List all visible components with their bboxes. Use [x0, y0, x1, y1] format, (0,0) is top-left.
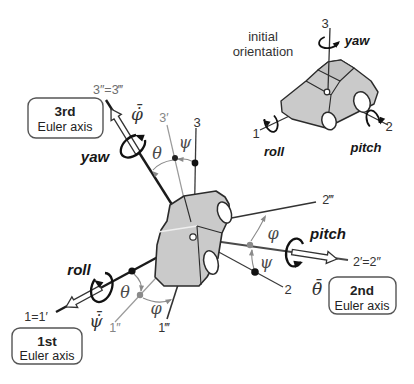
phi-right-label: φ — [267, 224, 279, 243]
figure-canvas: initial orientation 3 yaw 1 roll 2 pitch… — [0, 0, 414, 384]
dot-axis-3-prime — [172, 155, 178, 161]
inset-title-line2: orientation — [233, 44, 294, 59]
inset-yaw-label: yaw — [344, 33, 370, 48]
axis-2-label: 2 — [284, 282, 291, 297]
euler-axis-1-callout-title: 1st — [37, 334, 57, 349]
inset-pitch-rotation-arrow — [366, 110, 379, 126]
inset-axis-2-label: 2 — [385, 119, 392, 134]
euler-axis-3-callout-title: 3rd — [54, 104, 75, 119]
dot-axis-1-dprime — [137, 292, 143, 298]
axis-3-dprime-label: 3″=3‴ — [93, 83, 124, 97]
inset-car-center-dot — [324, 89, 330, 95]
psi-top-label: ψ — [179, 133, 192, 152]
euler-axis-3-callout-subtitle: Euler axis — [38, 120, 93, 134]
inset-pitch-label: pitch — [349, 140, 381, 155]
theta-left-label: θ — [120, 283, 130, 302]
inset-axis-1-label: 1 — [252, 126, 259, 141]
axis-1-dprime-label: 1″ — [109, 321, 121, 335]
axis-3-label: 3 — [193, 115, 200, 130]
euler-axis-2-callout-title: 2nd — [350, 283, 374, 298]
dot-axis-2 — [251, 268, 259, 276]
axis-2-tprime-label: 2‴ — [322, 193, 334, 207]
axis-2-prime-label: 2′=2″ — [353, 255, 382, 269]
euler-axis-2-callout-subtitle: Euler axis — [335, 299, 390, 313]
phi-rate-label: φ̇̄ — [131, 103, 143, 124]
euler-axis-1-callout-subtitle: Euler axis — [20, 349, 75, 363]
dot-axis-3 — [192, 160, 199, 167]
theta-top-label: θ — [152, 144, 162, 163]
theta-rate-label: θ̇̄ — [312, 278, 322, 299]
dot-axis-2-prime — [247, 242, 253, 248]
inset-axis-3-label: 3 — [321, 16, 328, 31]
car-center-dot — [190, 234, 196, 240]
axis-3-prime-label: 3′ — [159, 111, 169, 125]
roll-label: roll — [67, 261, 91, 278]
pitch-arrowhead-icon — [293, 259, 304, 268]
euler-angles-figure: initial orientation 3 yaw 1 roll 2 pitch… — [0, 0, 414, 384]
axis-1-label: 1=1′ — [24, 310, 48, 324]
phi-right-arrowhead-icon — [261, 214, 269, 222]
psi-right-label: ψ — [260, 253, 273, 272]
axis-1-tprime-label: 1‴ — [158, 321, 170, 335]
open-arrow-2nd-axis-icon — [292, 249, 337, 263]
pitch-label: pitch — [309, 225, 346, 242]
yaw-arrowhead-icon — [134, 132, 145, 142]
psi-rate-label: ψ̇̄ — [89, 310, 103, 331]
phi-left-label: φ — [150, 299, 162, 318]
inset-title-line1: initial — [248, 29, 278, 44]
dot-axis-1 — [128, 267, 135, 274]
open-arrow-1st-axis-icon — [66, 286, 102, 308]
yaw-label: yaw — [80, 148, 111, 165]
rotated-car — [155, 191, 234, 286]
psi-right-arrowhead-icon — [249, 249, 255, 256]
inset-roll-label: roll — [264, 144, 285, 159]
